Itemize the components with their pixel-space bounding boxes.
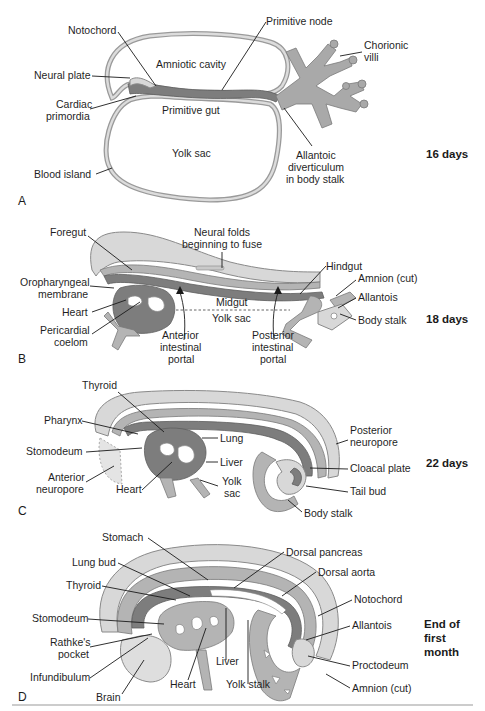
panel-letter-b: B [18, 352, 26, 366]
label-allantoic-line2: diverticulum [288, 161, 344, 173]
label-chorionic-villi-line1: Chorionic [364, 39, 408, 51]
label-anterior-portal-line1: Anterior [162, 329, 199, 341]
stage-label-d-line1: End of [424, 618, 460, 630]
panel-letter-c: C [18, 504, 27, 518]
label-posterior-portal-line3: portal [260, 353, 286, 365]
label-foregut: Foregut [50, 226, 86, 238]
label-proctodeum: Proctodeum [352, 659, 409, 671]
panel-d: Stomach Lung bud Thyroid Stomodeum Rathk… [18, 531, 460, 704]
label-cardiac-primordia-line2: primordia [46, 110, 90, 122]
label-liver: Liver [220, 456, 243, 468]
label-cardiac-primordia-line1: Cardiac [56, 98, 92, 110]
label-stomodeum: Stomodeum [26, 445, 83, 457]
label-anterior-portal-line3: portal [168, 353, 194, 365]
label-anterior-neuropore-line1: Anterior [48, 471, 85, 483]
label-dorsal-aorta: Dorsal aorta [318, 566, 375, 578]
label-cloacal-plate: Cloacal plate [350, 462, 411, 474]
label-heart: Heart [170, 678, 196, 690]
label-lung-bud: Lung bud [72, 556, 116, 568]
label-yolk-sac: Yolk sac [212, 312, 251, 324]
label-primitive-node: Primitive node [266, 15, 333, 27]
label-blood-island: Blood island [34, 168, 91, 180]
label-heart: Heart [62, 306, 88, 318]
label-pericardial-line1: Pericardial [40, 324, 90, 336]
label-amniotic-cavity: Amniotic cavity [156, 58, 227, 70]
stage-label-c: 22 days [426, 457, 468, 469]
label-thyroid: Thyroid [66, 579, 101, 591]
stage-label-a: 16 days [426, 148, 468, 160]
label-anterior-portal-line2: intestinal [160, 341, 201, 353]
panel-letter-a: A [18, 194, 26, 208]
label-body-stalk: Body stalk [358, 314, 407, 326]
label-brain: Brain [96, 691, 121, 703]
label-yolk-sac: Yolk sac [172, 147, 211, 159]
label-posterior-neuropore-line2: neuropore [350, 436, 398, 448]
label-neural-plate: Neural plate [34, 69, 91, 81]
label-pericardial-line2: coelom [54, 336, 88, 348]
panel-a: Notochord Primitive node Chorionic villi… [18, 15, 468, 208]
label-lung: Lung [220, 432, 244, 444]
panel-b: Foregut Neural folds beginning to fuse O… [18, 226, 468, 366]
label-tail-bud: Tail bud [350, 485, 386, 497]
label-posterior-portal-line2: intestinal [252, 341, 293, 353]
stage-label-b: 18 days [426, 313, 468, 325]
label-infundibulum: Infundibulum [30, 671, 90, 683]
stage-label-d-line3: month [424, 646, 459, 658]
label-neural-folds-line2: beginning to fuse [182, 238, 262, 250]
label-neural-folds-line1: Neural folds [194, 226, 250, 238]
label-oropharyngeal-line1: Oropharyngeal [20, 276, 89, 288]
stage-label-d-line2: first [424, 632, 446, 644]
panel-c: Thyroid Pharynx Stomodeum Anterior neuro… [18, 379, 468, 519]
label-oropharyngeal-line2: membrane [38, 288, 88, 300]
label-amnion-cut: Amnion (cut) [358, 272, 418, 284]
label-amnion-cut: Amnion (cut) [352, 682, 412, 694]
label-body-stalk: Body stalk [304, 507, 353, 519]
label-posterior-portal-line1: Posterior [252, 329, 295, 341]
label-posterior-neuropore-line1: Posterior [350, 424, 393, 436]
label-yolk-stalk: Yolk stalk [226, 678, 271, 690]
label-allantoic-line1: Allantoic [296, 149, 336, 161]
label-thyroid: Thyroid [82, 379, 117, 391]
label-allantois: Allantois [352, 619, 392, 631]
label-notochord: Notochord [68, 24, 117, 36]
label-chorionic-villi-line2: villi [364, 51, 379, 63]
label-stomach: Stomach [102, 531, 144, 543]
label-notochord: Notochord [354, 593, 403, 605]
label-dorsal-pancreas: Dorsal pancreas [286, 546, 362, 558]
label-pharynx: Pharynx [44, 414, 83, 426]
label-hindgut: Hindgut [326, 260, 362, 272]
label-primitive-gut: Primitive gut [162, 104, 220, 116]
label-midgut: Midgut [216, 296, 248, 308]
embryo-development-figure: Notochord Primitive node Chorionic villi… [0, 0, 485, 711]
label-allantois: Allantois [358, 291, 398, 303]
label-yolk-sac-line2: sac [224, 487, 240, 499]
panel-letter-d: D [18, 690, 27, 704]
label-heart: Heart [116, 483, 142, 495]
label-anterior-neuropore-line2: neuropore [36, 483, 84, 495]
label-yolk-sac-line1: Yolk [222, 475, 242, 487]
label-rathkes-line1: Rathke's [50, 636, 91, 648]
label-liver: Liver [216, 655, 239, 667]
label-stomodeum: Stomodeum [32, 612, 89, 624]
label-rathkes-line2: pocket [58, 648, 89, 660]
label-allantoic-line3: in body stalk [286, 173, 345, 185]
